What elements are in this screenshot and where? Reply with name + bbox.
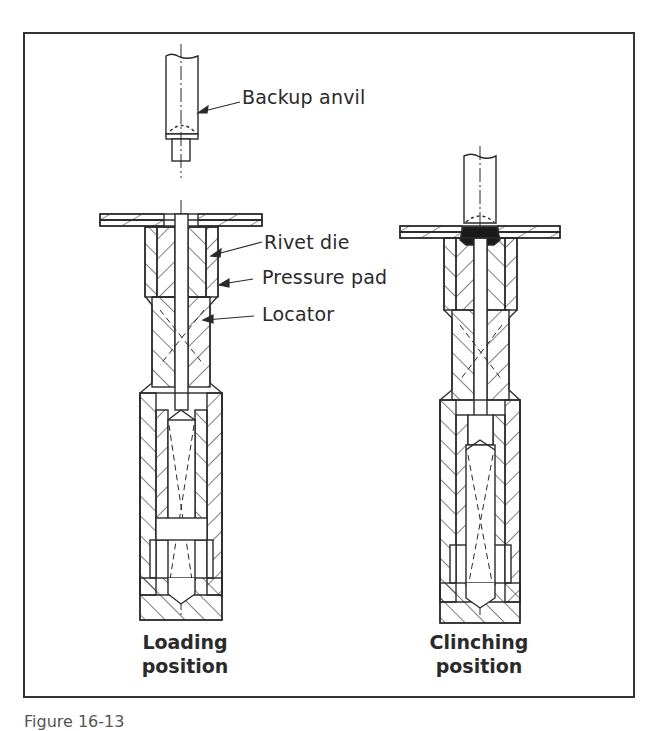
panel-title-clinching: Clinching position xyxy=(399,630,559,678)
panel-title-loading-line2: position xyxy=(105,654,265,678)
label-rivet-die: Rivet die xyxy=(264,231,350,253)
label-locator: Locator xyxy=(262,303,334,325)
panel-title-loading: Loading position xyxy=(105,630,265,678)
loading-position-assembly xyxy=(100,44,262,620)
backup-anvil-left xyxy=(166,54,198,161)
panel-title-loading-line1: Loading xyxy=(105,630,265,654)
clinching-position-assembly xyxy=(400,146,560,623)
figure-caption: Figure 16-13 xyxy=(24,712,124,731)
label-pressure-pad: Pressure pad xyxy=(262,266,387,288)
label-backup-anvil: Backup anvil xyxy=(242,86,366,108)
panel-title-clinching-line1: Clinching xyxy=(399,630,559,654)
panel-title-clinching-line2: position xyxy=(399,654,559,678)
